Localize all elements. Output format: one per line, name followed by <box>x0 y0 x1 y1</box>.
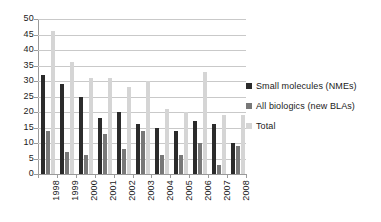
x-axis-tick-mark <box>95 174 96 178</box>
bar <box>103 134 107 174</box>
bar-group <box>212 19 226 174</box>
plot-area <box>38 19 246 174</box>
bar <box>222 115 226 174</box>
bar-chart: 05101520253035404550 Small molecules (NM… <box>0 0 381 222</box>
y-axis-tick-mark <box>34 19 38 20</box>
x-axis-tick-label: 2007 <box>222 180 232 201</box>
bar-group <box>79 19 93 174</box>
bar <box>65 152 69 174</box>
y-axis-tick-mark <box>34 128 38 129</box>
bar <box>236 146 240 174</box>
y-axis-labels: 05101520253035404550 <box>0 0 34 222</box>
x-axis-tick-label: 2001 <box>108 180 118 201</box>
bar <box>179 155 183 174</box>
y-axis-tick-mark <box>34 66 38 67</box>
bar-group <box>155 19 169 174</box>
x-axis-tick-mark <box>76 174 77 178</box>
bar <box>155 128 159 175</box>
x-axis-tick-label: 2005 <box>184 180 194 201</box>
bar-group <box>231 19 245 174</box>
legend-swatch-icon <box>246 83 252 89</box>
bar-group <box>136 19 150 174</box>
bar <box>231 143 235 174</box>
bar <box>212 124 216 174</box>
bar <box>117 112 121 174</box>
bar-group <box>60 19 74 174</box>
bar <box>241 115 245 174</box>
bar <box>79 97 83 175</box>
y-axis-tick-mark <box>34 159 38 160</box>
x-axis-tick-mark <box>189 174 190 178</box>
y-axis-tick-mark <box>34 143 38 144</box>
y-axis-tick-label: 35 <box>0 61 34 70</box>
x-axis-tick-label: 1999 <box>70 180 80 201</box>
bar-group <box>193 19 207 174</box>
legend-swatch-icon <box>246 123 252 129</box>
bar <box>127 87 131 174</box>
bar <box>198 143 202 174</box>
legend-item[interactable]: Small molecules (NMEs) <box>246 80 381 91</box>
bar <box>217 165 221 174</box>
y-axis-tick-label: 15 <box>0 123 34 132</box>
x-axis-tick-mark <box>151 174 152 178</box>
y-axis-tick-mark <box>34 35 38 36</box>
bar <box>160 155 164 174</box>
bar <box>193 121 197 174</box>
legend-item[interactable]: All biologics (new BLAs) <box>246 100 381 111</box>
y-axis-tick-mark <box>34 81 38 82</box>
x-axis-tick-label: 1998 <box>51 180 61 201</box>
y-axis-tick-label: 0 <box>0 169 34 178</box>
bar <box>108 78 112 174</box>
bar-group <box>174 19 188 174</box>
bar <box>70 62 74 174</box>
bar <box>98 118 102 174</box>
y-axis-tick-label: 25 <box>0 92 34 101</box>
bar <box>89 78 93 174</box>
bar <box>41 75 45 174</box>
x-axis-line <box>38 174 247 175</box>
y-axis-tick-label: 50 <box>0 14 34 23</box>
x-axis-tick-mark <box>38 174 39 178</box>
bar <box>146 81 150 174</box>
bar-group <box>117 19 131 174</box>
bar <box>174 131 178 174</box>
bar <box>184 112 188 174</box>
x-axis-tick-mark <box>208 174 209 178</box>
bar-group <box>41 19 55 174</box>
x-axis-tick-label: 2006 <box>203 180 213 201</box>
legend-item-label: All biologics (new BLAs) <box>256 101 355 111</box>
bar <box>203 72 207 174</box>
bar-group <box>98 19 112 174</box>
x-axis-tick-label: 2002 <box>127 180 137 201</box>
bar <box>51 31 55 174</box>
bar <box>165 109 169 174</box>
y-axis-tick-mark <box>34 97 38 98</box>
x-axis-tick-label: 2008 <box>241 180 251 201</box>
x-axis-tick-label: 2000 <box>89 180 99 201</box>
y-axis-tick-mark <box>34 112 38 113</box>
x-axis-tick-mark <box>227 174 228 178</box>
legend-item-label: Small molecules (NMEs) <box>256 81 357 91</box>
x-axis-tick-mark <box>114 174 115 178</box>
legend-item[interactable]: Total <box>246 120 381 131</box>
bar <box>60 84 64 174</box>
y-axis-tick-label: 20 <box>0 107 34 116</box>
y-axis-tick-label: 30 <box>0 76 34 85</box>
bar <box>141 131 145 174</box>
bar <box>84 155 88 174</box>
bar <box>122 149 126 174</box>
x-axis-tick-label: 2003 <box>146 180 156 201</box>
y-axis-tick-label: 5 <box>0 154 34 163</box>
x-axis-tick-label: 2004 <box>165 180 175 201</box>
x-axis-tick-mark <box>57 174 58 178</box>
bar <box>46 131 50 174</box>
bar <box>136 124 140 174</box>
legend-item-label: Total <box>256 121 276 131</box>
y-axis-tick-label: 10 <box>0 138 34 147</box>
legend-swatch-icon <box>246 103 252 109</box>
x-axis-tick-mark <box>170 174 171 178</box>
x-axis-tick-mark <box>246 174 247 178</box>
x-axis-tick-mark <box>133 174 134 178</box>
y-axis-tick-label: 40 <box>0 45 34 54</box>
y-axis-tick-label: 45 <box>0 30 34 39</box>
